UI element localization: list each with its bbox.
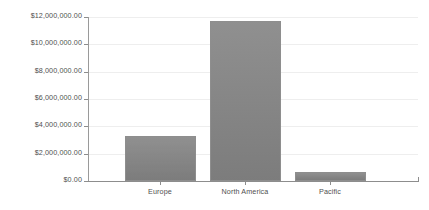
y-tick-mark [84, 99, 88, 100]
y-tick-label: $2,000,000.00 [35, 148, 82, 157]
x-axis-label-europe: Europe [120, 187, 200, 196]
bar-fill [126, 137, 195, 180]
y-tick-label: $6,000,000.00 [35, 93, 82, 102]
y-tick-mark [84, 126, 88, 127]
bar-chart: $12,000,000.00 $10,000,000.00 $8,000,000… [0, 0, 429, 210]
bar-fill [296, 173, 365, 180]
x-axis-label-north-america: North America [205, 187, 285, 196]
y-tick-mark [84, 154, 88, 155]
plot-area: $12,000,000.00 $10,000,000.00 $8,000,000… [88, 17, 418, 181]
y-tick-mark [84, 17, 88, 18]
bar-europe[interactable] [125, 136, 196, 181]
y-tick-label: $4,000,000.00 [35, 120, 82, 129]
x-tick-pacific [330, 181, 331, 185]
x-tick-europe [160, 181, 161, 185]
bar-north-america[interactable] [210, 21, 281, 181]
gridline [89, 17, 418, 18]
y-tick-mark [84, 44, 88, 45]
gridline [89, 181, 418, 182]
x-axis-end-tick [418, 177, 419, 182]
y-tick-mark [84, 181, 88, 182]
y-tick-label: $12,000,000.00 [31, 11, 82, 20]
bar-fill [211, 22, 280, 180]
y-tick-label: $10,000,000.00 [31, 38, 82, 47]
x-tick-north-america [245, 181, 246, 185]
y-tick-label: $8,000,000.00 [35, 66, 82, 75]
y-tick-label: $0.00 [64, 175, 83, 184]
y-tick-mark [84, 72, 88, 73]
x-axis-label-pacific: Pacific [290, 187, 370, 196]
bar-pacific[interactable] [295, 172, 366, 181]
